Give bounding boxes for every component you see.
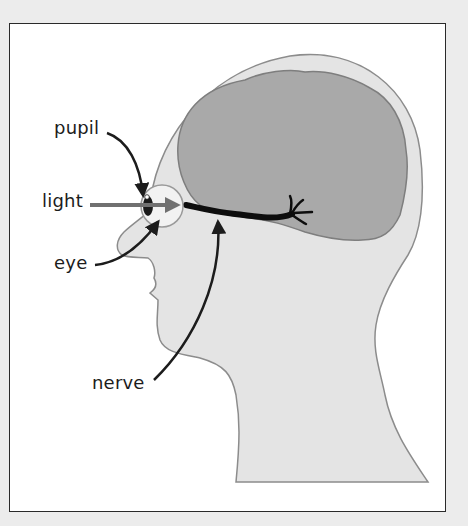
pupil-highlight	[145, 195, 150, 200]
label-nerve: nerve	[92, 372, 145, 393]
label-pupil: pupil	[54, 117, 99, 138]
label-light: light	[42, 190, 83, 211]
label-eye: eye	[54, 252, 87, 273]
pupil-pointer	[107, 133, 143, 195]
diagram-stage: pupil light eye nerve	[0, 0, 468, 526]
